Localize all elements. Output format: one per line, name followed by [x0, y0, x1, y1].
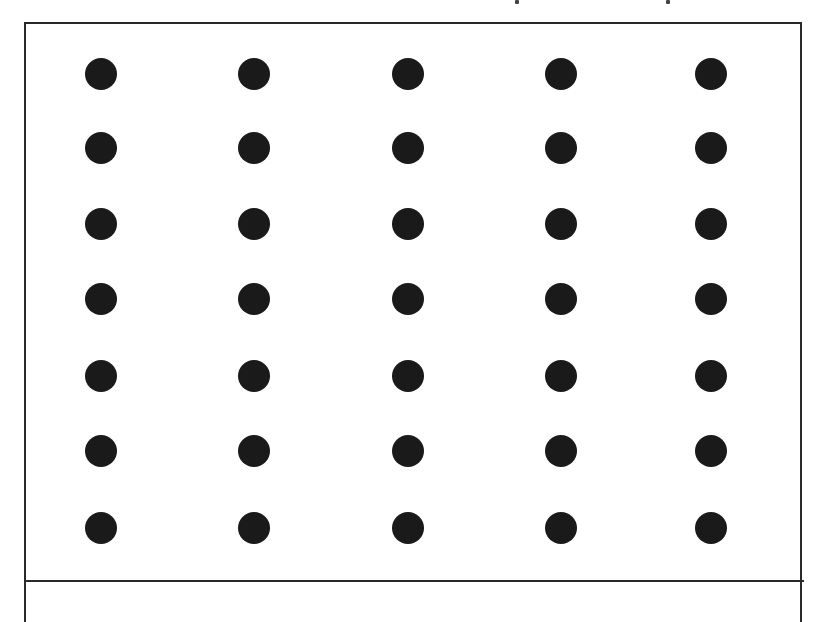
dot [238, 512, 270, 544]
dot [85, 435, 117, 467]
dot [238, 208, 270, 240]
dot [545, 283, 577, 315]
cropped-text-fragment [515, 0, 519, 4]
dot [695, 512, 727, 544]
frame-divider [24, 580, 804, 582]
dot [392, 512, 424, 544]
dot [238, 132, 270, 164]
dot [392, 58, 424, 90]
dot [695, 435, 727, 467]
cropped-text-fragment [666, 0, 670, 4]
dot [85, 208, 117, 240]
dot [545, 435, 577, 467]
dot [695, 208, 727, 240]
dot [238, 58, 270, 90]
dot [392, 132, 424, 164]
dot [545, 132, 577, 164]
dot [392, 435, 424, 467]
dot [238, 283, 270, 315]
dot [392, 208, 424, 240]
dot [85, 512, 117, 544]
dot [85, 132, 117, 164]
dot [545, 208, 577, 240]
dot [545, 360, 577, 392]
dot [85, 283, 117, 315]
dot [85, 360, 117, 392]
dot [85, 58, 117, 90]
dot [238, 360, 270, 392]
dot [545, 58, 577, 90]
dot [695, 58, 727, 90]
dot [695, 360, 727, 392]
dot [695, 132, 727, 164]
dot [545, 512, 577, 544]
dot [392, 360, 424, 392]
dot [695, 283, 727, 315]
dot [238, 435, 270, 467]
dot [392, 283, 424, 315]
